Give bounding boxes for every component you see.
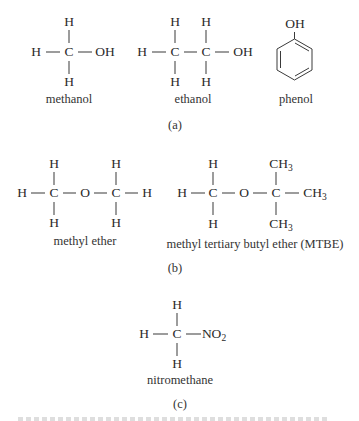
atom-h-left: H	[139, 327, 149, 341]
atom-h-bottom: H	[172, 357, 182, 371]
atom-h-bottom: H	[208, 217, 218, 231]
bond	[213, 172, 214, 185]
mtbe-label: methyl tertiary butyl ether (MTBE)	[166, 238, 343, 251]
atom-h-right: H	[142, 186, 152, 200]
bond	[116, 172, 117, 185]
atom-h-bottom: H	[111, 216, 121, 230]
methyl-group-top: CH3	[269, 157, 293, 171]
methyl-group-right: CH3	[303, 186, 327, 200]
bond	[54, 172, 55, 185]
nitro-group: NO2	[202, 327, 226, 341]
panel-c-label: (c)	[173, 398, 187, 411]
methyl-group-bottom: CH3	[269, 217, 293, 231]
atom-c: C	[49, 186, 58, 200]
bond	[94, 193, 107, 194]
double-bond-inner	[295, 68, 309, 76]
bond	[253, 193, 267, 194]
atom-c: C	[271, 186, 280, 200]
bond	[213, 202, 214, 215]
ch3-subscript: 3	[288, 163, 293, 173]
atom-h-left: H	[17, 186, 27, 200]
bond	[191, 193, 205, 194]
atom-h-top: H	[208, 157, 218, 171]
methyl-ether-label: methyl ether	[54, 235, 117, 248]
ch3-text: CH	[269, 156, 288, 171]
bond	[186, 334, 201, 335]
bond	[125, 193, 138, 194]
bond	[54, 202, 55, 215]
panel-a-label: (a)	[168, 119, 182, 132]
bond	[177, 343, 178, 356]
ch3-subscript: 3	[288, 223, 293, 233]
hexagon	[277, 39, 312, 80]
bond	[285, 193, 299, 194]
double-bond-inner	[295, 43, 309, 51]
bond	[276, 172, 277, 185]
nitromethane-label: nitromethane	[147, 374, 213, 387]
atom-h-top: H	[111, 157, 121, 171]
truncated-figure-caption	[18, 417, 328, 421]
phenol-label: phenol	[279, 93, 313, 106]
ch3-text: CH	[269, 216, 288, 231]
atom-o: O	[80, 186, 90, 200]
atom-h-bottom: H	[49, 216, 59, 230]
atom-c: C	[111, 186, 120, 200]
panel-b-label: (b)	[168, 262, 183, 275]
ch3-subscript: 3	[322, 192, 327, 202]
atom-c: C	[208, 186, 217, 200]
no2-subscript: 2	[221, 333, 226, 343]
atom-h-top: H	[172, 298, 182, 312]
atom-c: C	[172, 327, 181, 341]
bond	[177, 313, 178, 326]
bond	[153, 334, 168, 335]
atom-h-left: H	[177, 186, 187, 200]
bond	[63, 193, 76, 194]
atom-o: O	[239, 186, 249, 200]
ch3-text: CH	[303, 185, 322, 200]
no2-text: NO	[202, 326, 222, 341]
bond	[222, 193, 235, 194]
bond	[276, 202, 277, 215]
bond	[31, 193, 45, 194]
bond	[116, 202, 117, 215]
atom-h-top: H	[49, 157, 59, 171]
